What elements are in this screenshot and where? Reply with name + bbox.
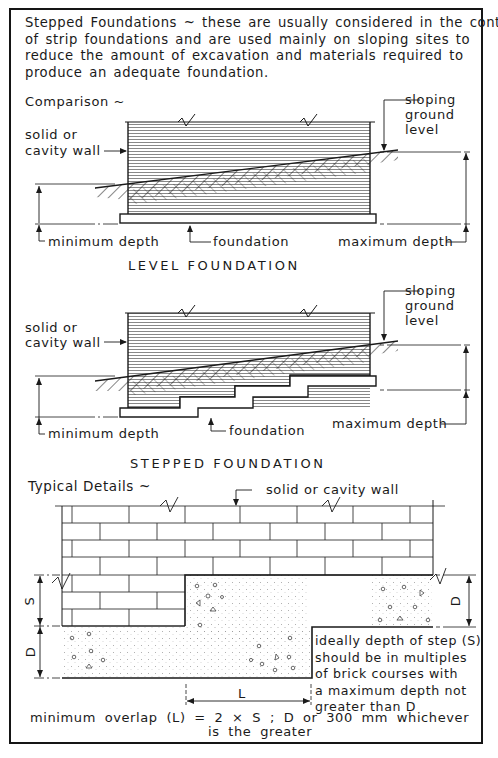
- stepped-foundation-caption: STEPPED FOUNDATION: [130, 456, 326, 471]
- stepped-ground-label-1: sloping: [405, 283, 456, 299]
- dim-d-left-label: D: [23, 647, 39, 658]
- level-ground-label-1: sloping: [405, 92, 456, 108]
- stepped-ground-label-3: level: [405, 313, 439, 329]
- level-wall-label-1: solid or: [25, 127, 77, 143]
- step-depth-note: ideally depth of step (S) should be in m…: [315, 633, 481, 716]
- dim-l-label: L: [238, 686, 246, 702]
- level-foundation-label: foundation: [213, 234, 289, 250]
- level-ground-label-2: ground: [405, 107, 455, 123]
- stepped-foundation-label: foundation: [229, 423, 305, 439]
- stepped-ground-label-2: ground: [405, 298, 455, 314]
- overlap-formula-line-2: is the greater: [208, 724, 312, 740]
- note-line: of brick courses with: [315, 666, 481, 683]
- level-wall-label-2: cavity wall: [25, 143, 101, 159]
- stepped-wall-label-1: solid or: [25, 320, 77, 336]
- comparison-heading: Comparison ~: [25, 94, 125, 110]
- dim-d-right-label: D: [448, 596, 464, 607]
- level-ground-label-3: level: [405, 122, 439, 138]
- note-line: ideally depth of step (S): [315, 633, 481, 650]
- details-heading: Typical Details ~: [28, 478, 151, 494]
- level-max-depth-label: maximum depth: [338, 234, 453, 250]
- dim-s-label: S: [22, 597, 38, 606]
- level-min-depth-label: minimum depth: [48, 234, 159, 250]
- details-wall-label: solid or cavity wall: [266, 482, 399, 498]
- note-line: a maximum depth not: [315, 683, 481, 700]
- note-line: should be in multiples: [315, 650, 481, 667]
- stepped-min-depth-label: minimum depth: [48, 426, 159, 442]
- stepped-max-depth-label: maximum depth: [332, 416, 447, 432]
- stepped-wall-label-2: cavity wall: [25, 335, 101, 351]
- level-foundation-caption: LEVEL FOUNDATION: [128, 258, 300, 273]
